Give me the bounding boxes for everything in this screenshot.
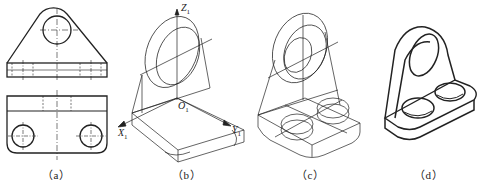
drawing-canvas — [0, 0, 487, 193]
caption-c: （c） — [296, 166, 324, 182]
panel-b-construction — [118, 8, 244, 162]
y-axis-label: Y1 — [232, 124, 241, 138]
figure-stage: Z1 O1 X1 Y1 （a） （b） （c） （d） — [0, 0, 487, 193]
panel-d-finished — [385, 27, 476, 140]
panel-a-top-view — [7, 90, 107, 160]
caption-b: （b） — [172, 166, 201, 182]
x-axis-label: X1 — [118, 127, 128, 141]
caption-d: （d） — [414, 166, 443, 182]
panel-c-construction — [258, 5, 360, 158]
z-axis-label: Z1 — [181, 2, 190, 16]
caption-a: （a） — [42, 166, 70, 182]
panel-a-front-view — [7, 8, 107, 80]
origin-label: O1 — [178, 100, 189, 114]
